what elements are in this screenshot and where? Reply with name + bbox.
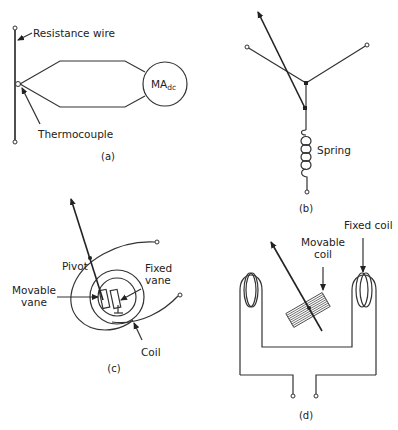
pivot-label: Pivot bbox=[62, 260, 88, 272]
panel-d: Movable coil Fixed coil (d) bbox=[240, 219, 393, 421]
pivot-dot bbox=[307, 306, 311, 310]
lead-left bbox=[240, 375, 293, 394]
movable-coil-label-2: coil bbox=[314, 248, 332, 260]
left-arm bbox=[247, 47, 306, 83]
pointer-arrow bbox=[71, 199, 103, 300]
terminal-icon bbox=[13, 140, 17, 144]
pivot-dot bbox=[88, 256, 92, 260]
spring-icon bbox=[301, 130, 311, 190]
fixed-vane-label-1: Fixed bbox=[145, 262, 172, 274]
terminal-icon bbox=[365, 43, 369, 47]
terminal-icon bbox=[245, 45, 249, 49]
movable-vane-label-2: vane bbox=[21, 296, 47, 308]
resistance-wire-label: Resistance wire bbox=[33, 27, 115, 39]
right-arm bbox=[306, 45, 367, 83]
terminal-icon bbox=[155, 240, 159, 244]
lead-right bbox=[316, 375, 376, 394]
fixed-vane bbox=[110, 289, 121, 308]
terminal-icon bbox=[178, 293, 182, 297]
terminal-icon bbox=[314, 394, 318, 398]
leader-arrow bbox=[121, 289, 141, 300]
fixed-coil-label: Fixed coil bbox=[344, 219, 393, 231]
panel-d-caption: (d) bbox=[299, 410, 313, 421]
movable-coil-label-1: Movable bbox=[301, 236, 345, 248]
thermocouple-label: Thermocouple bbox=[37, 128, 113, 140]
thermocouple-lead-upper bbox=[20, 61, 145, 84]
coil-inner bbox=[98, 278, 136, 316]
panel-c: Pivot Movable vane Fixed vane Coil (c) bbox=[12, 199, 182, 374]
pointer-arrow bbox=[258, 12, 305, 108]
fixed-coil-right-icon bbox=[352, 273, 376, 375]
junction-dot bbox=[304, 81, 308, 85]
coil-outer bbox=[71, 242, 155, 330]
movable-coil-icon bbox=[286, 293, 330, 328]
terminal-icon bbox=[291, 394, 295, 398]
panel-a-caption: (a) bbox=[101, 151, 115, 162]
coil-connector bbox=[262, 345, 352, 347]
fixed-vane-label-2: vane bbox=[145, 274, 171, 286]
panel-c-caption: (c) bbox=[107, 363, 120, 374]
spring-label: Spring bbox=[317, 144, 351, 156]
leader-arrow bbox=[18, 33, 32, 40]
thermocouple-lead-lower bbox=[20, 84, 145, 107]
panel-b-caption: (b) bbox=[299, 203, 313, 214]
meter-diagrams: MAdc Resistance wire Thermocouple (a) Sp… bbox=[0, 0, 398, 430]
movable-vane-label-1: Movable bbox=[12, 284, 56, 296]
leader-arrow bbox=[134, 323, 142, 340]
panel-a: MAdc Resistance wire Thermocouple (a) bbox=[13, 26, 187, 162]
fixed-coil-left-icon bbox=[240, 273, 262, 375]
panel-b: Spring (b) bbox=[245, 12, 369, 214]
thermocouple-junction-icon bbox=[16, 82, 21, 87]
terminal-icon bbox=[13, 26, 17, 30]
coil-label: Coil bbox=[141, 346, 161, 358]
terminal-icon bbox=[305, 190, 309, 194]
